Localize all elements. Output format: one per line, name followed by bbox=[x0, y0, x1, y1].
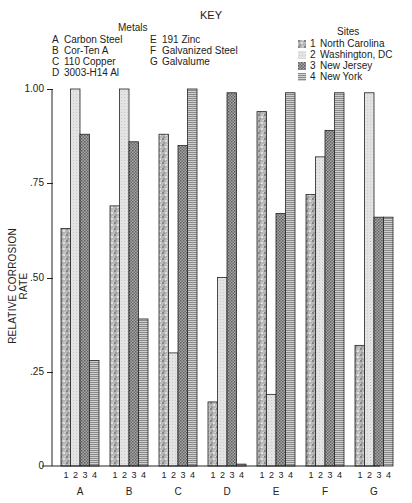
x-category-label: C bbox=[168, 486, 188, 497]
x-sub-label: 4 bbox=[188, 470, 198, 480]
x-category-label: D bbox=[217, 486, 237, 497]
x-sub-label: 4 bbox=[286, 470, 296, 480]
bar-F-3 bbox=[325, 130, 335, 466]
x-sub-label: 1 bbox=[110, 470, 120, 480]
bar-A-4 bbox=[90, 360, 100, 466]
bar-B-2 bbox=[120, 89, 130, 466]
x-sub-label: 4 bbox=[90, 470, 100, 480]
x-sub-label: 1 bbox=[61, 470, 71, 480]
bar-B-4 bbox=[139, 319, 149, 466]
x-sub-label: 4 bbox=[139, 470, 149, 480]
x-sub-label: 3 bbox=[227, 470, 237, 480]
bar-E-2 bbox=[267, 394, 277, 466]
x-sub-label: 3 bbox=[178, 470, 188, 480]
x-sub-label: 2 bbox=[71, 470, 81, 480]
x-sub-label: 4 bbox=[237, 470, 247, 480]
bar-A-2 bbox=[71, 89, 81, 466]
x-sub-label: 1 bbox=[306, 470, 316, 480]
bar-C-1 bbox=[159, 134, 169, 466]
x-sub-label: 3 bbox=[80, 470, 90, 480]
bar-C-4 bbox=[188, 89, 198, 466]
bar-B-1 bbox=[110, 206, 120, 466]
bar-A-3 bbox=[80, 134, 90, 466]
bar-D-1 bbox=[208, 402, 218, 466]
x-category-label: B bbox=[119, 486, 139, 497]
bar-G-2 bbox=[365, 93, 375, 466]
bar-G-1 bbox=[355, 345, 365, 466]
x-sub-label: 2 bbox=[218, 470, 228, 480]
bar-G-4 bbox=[384, 217, 394, 466]
bar-D-2 bbox=[218, 278, 228, 467]
x-sub-label: 2 bbox=[316, 470, 326, 480]
x-sub-label: 4 bbox=[335, 470, 345, 480]
x-sub-label: 4 bbox=[384, 470, 394, 480]
x-sub-label: 1 bbox=[159, 470, 169, 480]
bar-A-1 bbox=[61, 228, 71, 466]
bar-C-3 bbox=[178, 146, 188, 466]
x-sub-label: 3 bbox=[129, 470, 139, 480]
x-category-label: E bbox=[266, 486, 286, 497]
x-sub-label: 2 bbox=[120, 470, 130, 480]
x-sub-label: 3 bbox=[276, 470, 286, 480]
bar-E-4 bbox=[286, 93, 296, 466]
bar-D-3 bbox=[227, 93, 237, 466]
bar-E-3 bbox=[276, 213, 286, 466]
bar-E-1 bbox=[257, 112, 267, 466]
bar-B-3 bbox=[129, 142, 139, 466]
bar-F-4 bbox=[335, 93, 345, 466]
x-sub-label: 3 bbox=[374, 470, 384, 480]
bar-G-3 bbox=[374, 217, 384, 466]
x-category-label: F bbox=[315, 486, 335, 497]
bar-F-1 bbox=[306, 195, 316, 466]
x-sub-label: 2 bbox=[169, 470, 179, 480]
x-sub-label: 1 bbox=[257, 470, 267, 480]
x-category-label: A bbox=[70, 486, 90, 497]
bar-chart bbox=[0, 0, 412, 503]
bar-F-2 bbox=[316, 157, 326, 466]
x-sub-label: 2 bbox=[267, 470, 277, 480]
x-sub-label: 1 bbox=[355, 470, 365, 480]
bar-C-2 bbox=[169, 353, 179, 466]
x-category-label: G bbox=[364, 486, 384, 497]
x-sub-label: 3 bbox=[325, 470, 335, 480]
x-sub-label: 2 bbox=[365, 470, 375, 480]
x-sub-label: 1 bbox=[208, 470, 218, 480]
